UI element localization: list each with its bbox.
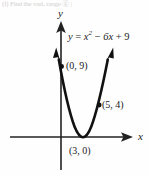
y-axis-label: y	[58, 8, 63, 19]
equation-constant: 9	[124, 31, 129, 42]
equation-equals: =	[75, 31, 81, 42]
equation-linear-term: 6x	[103, 31, 113, 42]
equation-exponent: 2	[89, 29, 93, 37]
point-label-y-intercept: (0, 9)	[66, 61, 88, 71]
x-axis-label: x	[138, 131, 143, 142]
equation-minus-sign: −	[95, 31, 101, 42]
parabola-curve	[59, 60, 108, 138]
equation-plus-sign: +	[116, 31, 122, 42]
parabola-figure: (f) Find the vari, range ⓖ | y x y = x2 …	[0, 0, 149, 176]
point-label-right: (5, 4)	[102, 100, 124, 110]
point-label-vertex: (3, 0)	[69, 146, 91, 156]
equation-label: y = x2 − 6x + 9	[68, 30, 130, 42]
equation-lhs: y	[68, 31, 73, 42]
point-dot-right	[97, 103, 102, 108]
curve-right-arrowhead	[106, 48, 114, 62]
point-dot-y-intercept	[59, 64, 64, 69]
curve-left-arrowhead	[53, 48, 60, 62]
